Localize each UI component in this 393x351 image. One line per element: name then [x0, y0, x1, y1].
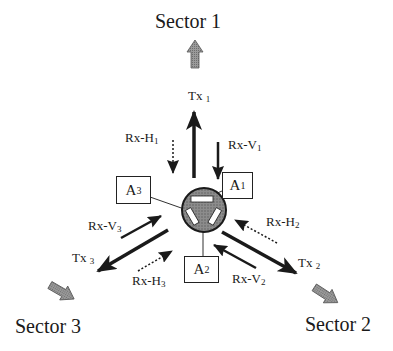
sector-2-label: Sector 2 — [305, 314, 371, 334]
antenna-a1-box: A1 — [222, 172, 253, 199]
antenna-a2-box: A2 — [184, 256, 219, 283]
rxh1-label: Rx-H1 — [125, 131, 158, 146]
rxh3-label: Rx-H3 — [132, 274, 165, 289]
rxh3-arrow-icon — [138, 251, 172, 271]
antenna-a1-label: A — [230, 177, 241, 194]
antenna-hub-icon — [182, 188, 226, 232]
tx1-label: Tx 1 — [188, 89, 210, 104]
tx2-arrow-icon — [222, 232, 296, 273]
tx3-arrow-icon — [98, 230, 168, 271]
sector-3-arrow-icon — [46, 278, 78, 306]
antenna-a3-label: A — [126, 182, 137, 199]
rxv3-arrow-icon — [121, 216, 161, 238]
tx3-label: Tx 3 — [72, 251, 94, 266]
sector-1-label: Sector 1 — [155, 11, 221, 31]
sector-1-arrow-icon — [187, 40, 203, 68]
antenna-a2-label: A — [194, 261, 205, 278]
rxv2-label: Rx-V2 — [232, 272, 265, 287]
tx2-label: Tx 2 — [298, 256, 320, 271]
rxv3-label: Rx-V3 — [88, 219, 121, 234]
rxv1-label: Rx-V1 — [228, 138, 261, 153]
antenna-a3-box: A3 — [116, 176, 151, 204]
sector-3-label: Sector 3 — [15, 316, 81, 336]
sector-2-arrow-icon — [310, 281, 342, 310]
rxh2-label: Rx-H2 — [266, 215, 299, 230]
diagram-canvas — [0, 0, 393, 351]
